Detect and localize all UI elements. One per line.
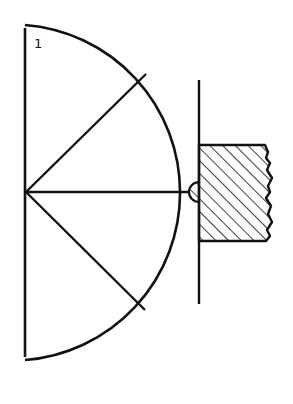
diagram-canvas: 1 (0, 0, 293, 404)
hatched-block (199, 145, 272, 241)
lower-radius-line (26, 192, 145, 310)
figure-label: 1 (34, 36, 42, 51)
upper-radius-line (26, 74, 146, 192)
